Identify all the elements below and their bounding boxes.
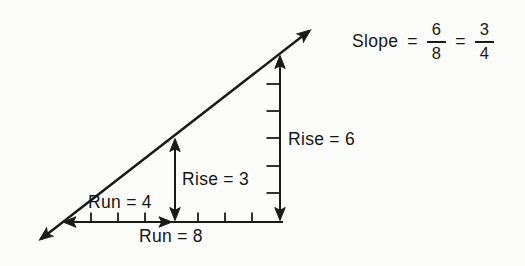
rise-outer-ticks	[267, 84, 281, 193]
rise-inner-label: Rise = 3	[182, 171, 249, 189]
slope-equation: Slope = 6 8 = 3 4	[352, 19, 494, 64]
run-inner-label: Run = 4	[88, 194, 152, 212]
equals-sign: =	[407, 31, 418, 52]
rise-outer-label: Rise = 6	[288, 131, 355, 149]
slope-equation-word: Slope	[352, 31, 398, 52]
equals-sign: =	[455, 31, 466, 52]
fraction-numerator: 6	[427, 21, 446, 40]
run-baseline-ticks	[91, 213, 252, 223]
fraction-denominator: 8	[427, 41, 446, 62]
slope-figure: Run = 4 Run = 8 Rise = 3 Rise = 6 Slope …	[0, 0, 525, 266]
fraction-denominator: 4	[475, 41, 494, 62]
slope-fraction-simplified: 3 4	[475, 21, 494, 62]
run-outer-label: Run = 8	[139, 228, 203, 246]
slope-fraction-unsimplified: 6 8	[427, 21, 446, 62]
fraction-numerator: 3	[475, 21, 494, 40]
